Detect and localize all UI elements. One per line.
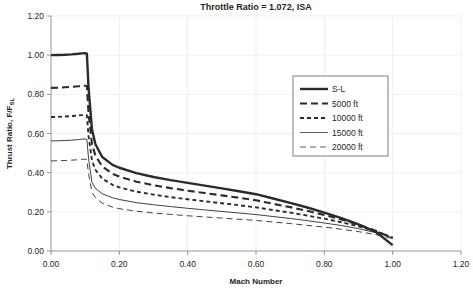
y-tick-label-6: 1.20 — [27, 11, 44, 21]
thrust-ratio-line-chart: 0.000.200.400.600.801.001.200.000.200.40… — [0, 0, 473, 291]
y-tick-label-0: 0.00 — [27, 246, 44, 256]
legend-label-4: 20000 ft — [332, 142, 363, 152]
y-tick-label-1: 0.20 — [27, 207, 44, 217]
legend-label-1: 5000 ft — [332, 99, 359, 109]
y-tick-label-2: 0.40 — [27, 168, 44, 178]
legend-label-2: 10000 ft — [332, 113, 363, 123]
x-axis-title: Mach Number — [230, 277, 283, 286]
x-tick-label-3: 0.60 — [248, 259, 265, 269]
x-tick-label-4: 0.80 — [316, 259, 333, 269]
x-tick-label-2: 0.40 — [179, 259, 196, 269]
legend-label-3: 15000 ft — [332, 128, 363, 138]
legend-label-0: S-L — [332, 84, 346, 94]
y-tick-label-4: 0.80 — [27, 89, 44, 99]
x-tick-label-6: 1.20 — [453, 259, 470, 269]
x-tick-label-0: 0.00 — [43, 259, 60, 269]
svg-text:Thrust Ratio, F/FSL: Thrust Ratio, F/FSL — [5, 98, 15, 170]
x-tick-label-5: 1.00 — [384, 259, 401, 269]
y-tick-label-3: 0.60 — [27, 129, 44, 139]
y-tick-label-5: 1.00 — [27, 50, 44, 60]
y-axis-title: Thrust Ratio, F/FSL — [5, 98, 15, 170]
chart-figure: 0.000.200.400.600.801.001.200.000.200.40… — [0, 0, 473, 291]
x-tick-label-1: 0.20 — [111, 259, 128, 269]
chart-title: Throttle Ratio = 1.072, ISA — [200, 2, 312, 12]
